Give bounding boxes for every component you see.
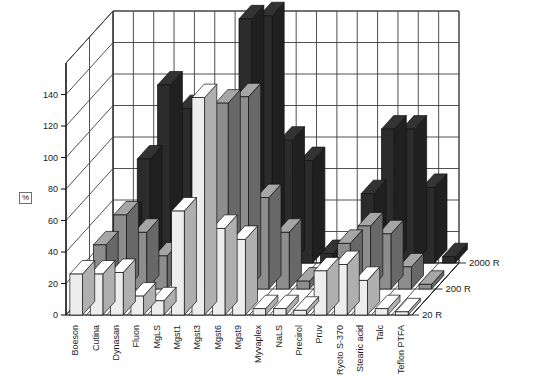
category-label-precirol: Precirol: [294, 325, 304, 356]
y-tick-label: 80: [48, 184, 58, 194]
legend-label-200r: 200 R: [446, 283, 471, 294]
y-tick-label: 60: [48, 216, 58, 226]
category-label-cutina: Cutina: [91, 325, 101, 351]
y-tick-label: 100: [43, 153, 58, 163]
chart-root: % 020406080100120140 BoesonCutinaDynasan…: [0, 0, 533, 387]
category-label-talc: Talc: [375, 325, 385, 342]
category-label-nals: NaLS: [274, 325, 284, 348]
category-label-myvaplex: Myvaplex: [253, 325, 263, 364]
y-tick-label: 140: [43, 90, 58, 100]
category-label-mgst6: Mgst6: [213, 325, 223, 350]
category-label-dynasan: Dynasan: [111, 325, 121, 361]
category-label-ryotos370: Ryoto S-370: [335, 325, 345, 375]
category-labels: BoesonCutinaDynasanFluonMgLSMgst1Mgst3Mg…: [70, 325, 406, 376]
category-label-boeson: Boeson: [70, 325, 80, 356]
y-axis-unit-label: %: [19, 192, 32, 204]
legend-label-20r: 20 R: [422, 309, 442, 320]
y-tick-label: 0: [53, 310, 58, 320]
bar-chart-3d: 020406080100120140 BoesonCutinaDynasanFl…: [0, 0, 533, 387]
y-tick-label: 120: [43, 121, 58, 131]
category-label-mgst3: Mgst3: [192, 325, 202, 350]
category-label-mgst9: Mgst9: [233, 325, 243, 350]
category-label-pruv: Pruv: [314, 325, 324, 344]
category-label-mgls: MgLS: [152, 325, 162, 349]
y-axis: 020406080100120140: [43, 63, 66, 320]
y-tick-label: 20: [48, 279, 58, 289]
legend-label-2000r: 2000 R: [469, 257, 500, 268]
category-label-fluon: Fluon: [131, 325, 141, 348]
y-tick-label: 40: [48, 247, 58, 257]
category-label-stearicacid: Stearic acid: [355, 325, 365, 372]
category-label-mgst1: Mgst1: [172, 325, 182, 350]
category-label-teflonptfa: Teflon PTFA: [396, 325, 406, 374]
